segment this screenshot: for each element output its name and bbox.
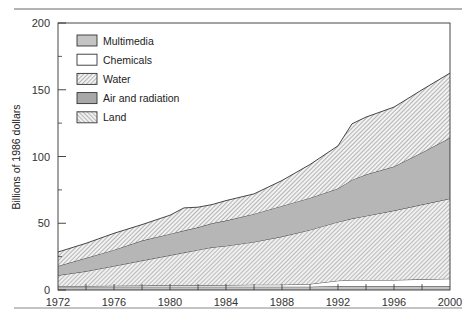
legend-item-multimedia: Multimedia	[77, 35, 154, 47]
legend-swatch	[77, 73, 97, 84]
x-tick-label: 1996	[382, 296, 406, 308]
x-tick-label: 1976	[102, 296, 126, 308]
legend-label: Land	[103, 111, 127, 123]
legend-label: Water	[103, 73, 131, 85]
legend-label: Multimedia	[103, 35, 154, 47]
area-layers	[58, 73, 450, 290]
y-axis-label: Billions of 1986 dollars	[10, 104, 22, 209]
x-tick-label: 2000	[438, 296, 462, 308]
y-tick-label: 0	[44, 284, 50, 296]
x-tick-label: 1992	[326, 296, 350, 308]
y-tick-label: 150	[32, 84, 50, 96]
x-tick-label: 1980	[158, 296, 182, 308]
y-tick-label: 200	[32, 17, 50, 29]
legend-item-chemicals: Chemicals	[77, 54, 152, 66]
legend: MultimediaChemicalsWaterAir and radiatio…	[77, 35, 180, 124]
y-tick-label: 100	[32, 151, 50, 163]
legend-swatch	[77, 54, 97, 65]
legend-swatch	[77, 112, 97, 123]
x-tick-label: 1972	[46, 296, 70, 308]
x-tick-label: 1988	[270, 296, 294, 308]
legend-item-air-and-radiation: Air and radiation	[77, 92, 180, 104]
legend-label: Air and radiation	[103, 92, 180, 104]
x-tick-label: 1984	[214, 296, 238, 308]
legend-swatch	[77, 93, 97, 104]
legend-swatch	[77, 35, 97, 46]
legend-label: Chemicals	[103, 54, 152, 66]
stacked-area-chart: 0501001502001972197619801984198819921996…	[0, 0, 471, 327]
legend-item-land: Land	[77, 111, 127, 123]
legend-item-water: Water	[77, 73, 131, 85]
y-tick-label: 50	[38, 217, 50, 229]
